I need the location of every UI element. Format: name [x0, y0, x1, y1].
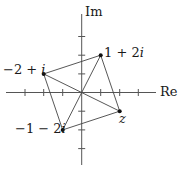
label-z: z: [118, 111, 126, 126]
axes: [6, 14, 156, 165]
imag-axis-label: Im: [85, 4, 102, 19]
real-axis-label: Re: [160, 84, 178, 99]
complex-plane-diagram: Im Re 1 + 2i −2 + i −1 − 2i z: [0, 0, 186, 175]
label-1-plus-2i: 1 + 2i: [104, 45, 144, 60]
label-neg2-plus-i: −2 + i: [3, 62, 46, 77]
label-neg1-minus-2i: −1 − 2i: [15, 121, 66, 136]
point-1-plus-2i: [99, 53, 103, 57]
